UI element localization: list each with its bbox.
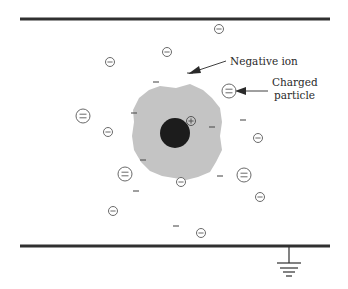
ground-icon: [277, 246, 301, 276]
charged-particle-arrow: [235, 87, 268, 95]
negative-ion-icon: [254, 134, 263, 143]
negative-ion-icon: [104, 128, 113, 137]
electrostatic-diagram: Negative ion Charged particle: [0, 0, 348, 289]
particle-core: [160, 118, 190, 148]
negative-ion-icon: [256, 193, 265, 202]
negative-ion-icon: [215, 25, 224, 34]
negative-ion-icon: [163, 48, 172, 57]
negative-ion-icon: [197, 229, 206, 238]
negative-ion-arrow: [188, 61, 226, 74]
diagram-canvas: Negative ion Charged particle: [0, 0, 348, 289]
negative-ion-icon: [106, 58, 115, 67]
charged-particle-icon: [237, 168, 251, 182]
negative-ion-icon: [177, 178, 186, 187]
negative-ion-icon: [109, 207, 118, 216]
charged-particle-icon: [118, 167, 132, 181]
charged-particle-icon: [222, 84, 236, 98]
charged-label-line2: particle: [274, 89, 315, 101]
charged-label-line1: Charged: [272, 76, 318, 88]
negative-ion-label: Negative ion: [230, 55, 298, 67]
charged-particle-icon: [76, 109, 90, 123]
